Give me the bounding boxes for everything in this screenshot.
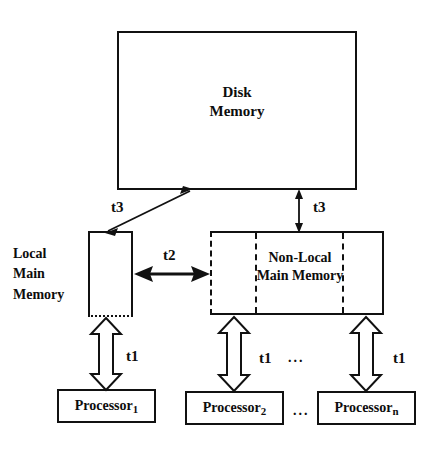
latency-label-t2: t2 [163,247,176,264]
arrow-t1-right [351,317,381,391]
arrow-t1-middle [219,317,249,391]
local-main-memory-label-line3: Memory [13,285,64,305]
latency-label-t1-middle: t1 [259,350,272,367]
processor-n-name: Processor [334,400,392,415]
latency-label-t1-right: t1 [393,350,406,367]
non-local-main-memory-label: Non-Local Main Memory [238,249,362,285]
processor-1-label: Processor1 [57,397,156,417]
latency-label-t3-right: t3 [313,199,326,216]
processor-2-index: 2 [261,405,266,417]
disk-memory-label: Disk Memory [177,83,297,121]
non-local-main-memory-label-line2: Main Memory [238,267,362,285]
non-local-main-memory-label-line1: Non-Local [238,249,362,267]
processor-row-ellipsis: ... [293,403,310,419]
disk-memory-label-line2: Memory [177,102,297,121]
local-main-memory-label-line2: Main [13,264,64,284]
disk-memory-label-line1: Disk [177,83,297,102]
processor-n-label: Processorn [317,399,416,419]
latency-label-t1-left: t1 [126,348,139,365]
processor-2-label: Processor2 [185,399,284,419]
local-main-memory-box [88,231,133,317]
arrow-t2 [134,266,210,282]
local-main-memory-label-line1: Local [13,244,64,264]
memory-row-ellipsis: ... [288,350,305,366]
processor-2-name: Processor [203,400,261,415]
diagram-canvas: Disk Memory Local Main Memory Non-Local … [0,0,428,451]
processor-1-index: 1 [133,403,138,415]
processor-n-index: n [392,405,398,417]
processor-1-name: Processor [75,398,133,413]
latency-label-t3-left: t3 [111,199,124,216]
local-main-memory-label: Local Main Memory [13,244,64,305]
arrow-t1-left [91,318,121,390]
arrow-t3-right [295,189,303,233]
